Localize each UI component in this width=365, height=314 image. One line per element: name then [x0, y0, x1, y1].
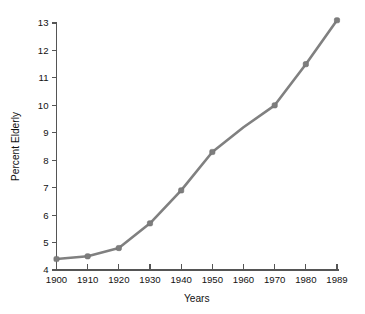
- x-tick-label: 1950: [202, 274, 223, 285]
- y-tick-label: 9: [43, 127, 48, 138]
- y-tick-label: 6: [43, 210, 48, 221]
- x-tick-label: 1940: [170, 274, 191, 285]
- y-tick-label: 13: [38, 17, 49, 28]
- y-tick-label: 5: [43, 237, 48, 248]
- y-tick-label: 10: [38, 100, 49, 111]
- x-axis-ticks: [57, 264, 338, 270]
- x-tick-label: 1989: [326, 274, 347, 285]
- data-point-marker: [303, 62, 308, 67]
- x-axis-tick-labels: 1900191019201930194019501960197019801989: [46, 274, 348, 285]
- data-point-marker: [147, 221, 152, 226]
- data-point-marker: [210, 149, 215, 154]
- x-tick-label: 1930: [139, 274, 160, 285]
- x-axis-title: Years: [184, 293, 210, 304]
- data-line-percent-elderly: [57, 20, 338, 259]
- data-markers: [54, 18, 340, 262]
- x-tick-label: 1980: [295, 274, 316, 285]
- y-axis-ticks: [52, 23, 57, 270]
- y-tick-label: 8: [43, 155, 48, 166]
- data-point-marker: [54, 256, 59, 261]
- y-axis-title: Percent Elderly: [10, 111, 21, 181]
- x-tick-label: 1960: [233, 274, 254, 285]
- x-tick-label: 1910: [77, 274, 98, 285]
- data-point-marker: [179, 188, 184, 193]
- data-point-marker: [85, 254, 90, 259]
- line-chart: 45678910111213 1900191019201930194019501…: [0, 0, 365, 314]
- data-point-marker: [334, 18, 339, 23]
- chart-plot-area: 45678910111213 1900191019201930194019501…: [0, 0, 365, 314]
- axes: [57, 23, 340, 270]
- y-tick-label: 11: [39, 72, 49, 83]
- x-tick-label: 1920: [108, 274, 129, 285]
- x-tick-label: 1900: [46, 274, 67, 285]
- y-tick-label: 12: [38, 45, 49, 56]
- x-tick-label: 1970: [264, 274, 285, 285]
- y-tick-label: 7: [43, 182, 48, 193]
- y-axis-tick-labels: 45678910111213: [38, 17, 49, 275]
- data-point-marker: [116, 245, 121, 250]
- data-point-marker: [272, 103, 277, 108]
